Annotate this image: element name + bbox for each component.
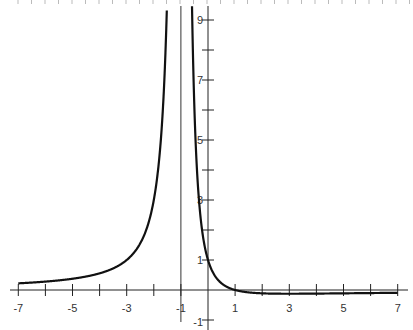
y-tick-label: 7 [197,74,203,86]
x-axis-tick-labels: -7 -5 -3 -1 1 3 5 7 [13,302,400,314]
curve-left-branch [18,10,167,283]
top-ruler-ticks [18,0,410,4]
x-tick-label: 1 [232,302,238,314]
x-tick-label: -3 [122,302,132,314]
y-tick-label: 9 [197,14,203,26]
x-tick-label: 5 [340,302,346,314]
y-tick-label: -1 [193,316,203,328]
function-plot: -7 -5 -3 -1 1 3 5 7 -1 1 3 5 7 9 [0,0,413,330]
x-tick-label: -1 [176,302,186,314]
x-tick-label: -7 [13,302,23,314]
y-tick-label: 5 [197,134,203,146]
x-tick-label: -5 [68,302,78,314]
x-tick-label: 3 [286,302,292,314]
x-tick-label: 7 [395,302,401,314]
curve-right-branch [192,6,398,294]
y-tick-label: 1 [197,254,203,266]
